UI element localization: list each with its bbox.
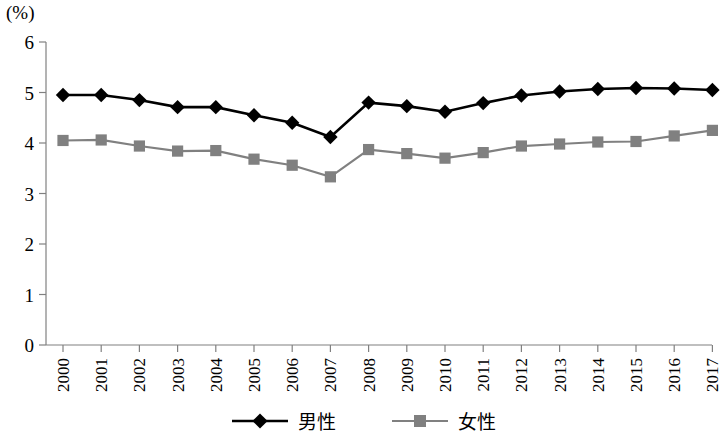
data-point-marker [630, 136, 641, 147]
chart-container: (%) 0123456 2000200120022003200420052006… [0, 0, 722, 437]
x-tick-label: 2008 [360, 358, 379, 392]
data-point-marker [132, 93, 146, 107]
data-point-marker [56, 88, 70, 102]
x-tick-label: 2001 [92, 358, 111, 392]
x-tick-label: 2016 [665, 358, 684, 392]
data-point-marker [248, 154, 259, 165]
data-point-marker [592, 136, 603, 147]
series-line [63, 88, 712, 137]
data-point-marker [285, 116, 299, 130]
x-tick-label: 2005 [245, 358, 264, 392]
data-point-marker [629, 81, 643, 95]
data-point-marker [514, 88, 528, 102]
x-tick-label: 2002 [130, 358, 149, 392]
x-tick-label: 2010 [436, 358, 455, 392]
y-tick-label: 1 [25, 285, 35, 306]
data-point-marker [669, 130, 680, 141]
data-point-marker [439, 153, 450, 164]
data-point-marker [707, 125, 718, 136]
data-point-marker [170, 100, 184, 114]
data-point-marker [591, 82, 605, 96]
series-line [63, 130, 712, 176]
x-tick-label: 2012 [512, 358, 531, 392]
x-tick-label: 2017 [703, 358, 722, 393]
data-point-marker [476, 96, 490, 110]
y-tick-label: 6 [25, 32, 35, 53]
data-series-group [56, 81, 720, 183]
x-tick-label: 2014 [589, 358, 608, 393]
x-tick-label: 2004 [207, 358, 226, 393]
legend-item-2: 女性 [392, 411, 496, 433]
x-tick-label: 2003 [169, 358, 188, 392]
x-tick-label: 2000 [54, 358, 73, 392]
x-axis: 2000200120022003200420052006200720082009… [46, 345, 722, 392]
y-tick-label: 5 [25, 83, 35, 104]
data-point-marker [552, 84, 566, 98]
data-point-marker [554, 138, 565, 149]
y-axis: 0123456 [25, 32, 47, 356]
chart-legend: 男性女性 [232, 411, 496, 433]
x-tick-label: 2013 [551, 358, 570, 392]
x-tick-label: 2011 [474, 358, 493, 391]
data-point-marker [210, 145, 221, 156]
data-point-marker [96, 134, 107, 145]
y-tick-label: 0 [25, 335, 35, 356]
x-tick-label: 2006 [283, 358, 302, 392]
legend-label: 女性 [458, 411, 496, 433]
legend-label: 男性 [298, 411, 336, 433]
legend-marker [414, 415, 426, 427]
data-point-marker [401, 148, 412, 159]
y-tick-label: 3 [25, 184, 35, 205]
data-point-marker [705, 83, 719, 97]
data-point-marker [172, 145, 183, 156]
series-1 [56, 81, 720, 144]
data-point-marker [438, 104, 452, 118]
data-point-marker [287, 160, 298, 171]
data-point-marker [57, 135, 68, 146]
y-tick-label: 4 [25, 133, 35, 154]
data-point-marker [478, 147, 489, 158]
data-point-marker [209, 100, 223, 114]
x-tick-label: 2015 [627, 358, 646, 392]
legend-item-1: 男性 [232, 411, 336, 433]
series-2 [57, 125, 718, 183]
x-tick-label: 2009 [398, 358, 417, 392]
data-point-marker [363, 144, 374, 155]
y-tick-label: 2 [25, 234, 35, 255]
legend-marker [252, 413, 267, 428]
data-point-marker [667, 81, 681, 95]
line-chart: 0123456 20002001200220032004200520062007… [0, 0, 722, 437]
x-tick-label: 2007 [321, 358, 340, 393]
data-point-marker [94, 88, 108, 102]
data-point-marker [325, 171, 336, 182]
data-point-marker [400, 99, 414, 113]
data-point-marker [516, 140, 527, 151]
data-point-marker [247, 108, 261, 122]
data-point-marker [134, 140, 145, 151]
